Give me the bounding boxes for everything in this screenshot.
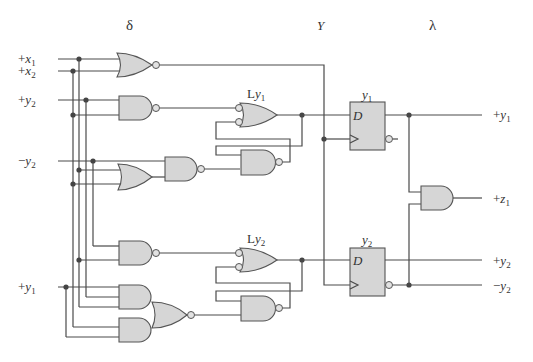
ff-d-label-y2: D [353, 254, 362, 267]
ff-name-y2: y2 [362, 233, 372, 249]
flipflop-y1 [350, 102, 482, 150]
nand-gate-y2 [119, 96, 236, 120]
section-Y: Y [317, 19, 324, 32]
output-label-plus-y1: +y1 [493, 108, 511, 124]
nand-gate-3 [119, 241, 236, 265]
output-label-minus-y2: −y2 [493, 279, 511, 295]
section-lambda: λ [429, 18, 436, 33]
output-label-plus-y2: +y2 [493, 254, 511, 270]
branch-wires [66, 115, 122, 337]
ff-name-y1: y1 [362, 88, 372, 104]
circuit-schematic [0, 0, 533, 362]
ff-d-label-y1: D [353, 109, 362, 122]
bus-wires [66, 59, 93, 337]
nand-gate-2 [165, 157, 240, 181]
latch-label-ly1: Ly1 [247, 87, 265, 103]
logic-diagram: δ Y λ +x1 +x2 +y2 −y2 +y1 Ly1 Ly2 y1 D y… [0, 0, 533, 362]
section-delta: δ [126, 18, 133, 33]
input-label-minus-y2: −y2 [18, 154, 36, 170]
input-label-plus-y2: +y2 [18, 93, 36, 109]
flipflop-y2 [350, 248, 482, 296]
output-label-z1: +z1 [493, 192, 510, 208]
or-gate-minus-y2 [118, 164, 166, 190]
latch-label-ly2: Ly2 [247, 232, 265, 248]
input-label-plus-y1: +y1 [18, 280, 36, 296]
input-label-x2: +x2 [18, 64, 36, 80]
and-nor-group [119, 285, 241, 342]
